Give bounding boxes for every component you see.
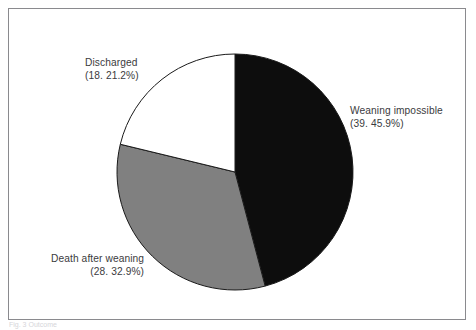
slice-label-death-after-weaning-name: Death after weaning [51, 252, 144, 265]
slice-label-death-after-weaning-value: (28. 32.9%) [51, 265, 144, 278]
slice-label-death-after-weaning: Death after weaning (28. 32.9%) [51, 252, 144, 279]
caption-fragment: Fig. 3 Outcome [9, 321, 129, 329]
figure-frame: Discharged (18. 21.2%) Weaning impossibl… [8, 8, 466, 320]
pie-chart [109, 46, 361, 298]
pie-slice-group [117, 54, 353, 290]
slice-label-weaning-impossible-value: (39. 45.9%) [350, 117, 443, 130]
figure-root: Discharged (18. 21.2%) Weaning impossibl… [0, 0, 476, 330]
slice-label-weaning-impossible: Weaning impossible (39. 45.9%) [350, 104, 443, 131]
slice-label-discharged-value: (18. 21.2%) [85, 69, 139, 82]
pie-chart-svg [109, 46, 361, 298]
slice-label-discharged: Discharged (18. 21.2%) [85, 56, 139, 83]
slice-label-weaning-impossible-name: Weaning impossible [350, 104, 443, 117]
slice-label-discharged-name: Discharged [85, 56, 139, 69]
